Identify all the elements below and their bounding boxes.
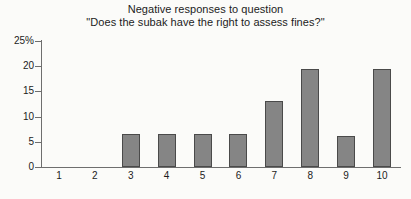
bar bbox=[373, 69, 391, 167]
y-axis-tick bbox=[35, 41, 41, 42]
x-axis-tick-label: 8 bbox=[307, 170, 313, 181]
x-axis-tick-label: 6 bbox=[236, 170, 242, 181]
x-axis-line bbox=[41, 167, 401, 168]
y-axis-tick-label: 0 bbox=[0, 161, 34, 172]
chart-title-line-1: Negative responses to question bbox=[0, 3, 411, 16]
x-axis-tick-label: 1 bbox=[56, 170, 62, 181]
y-axis-tick bbox=[35, 117, 41, 118]
y-axis-tick bbox=[35, 66, 41, 67]
y-axis-tick-label: 5 bbox=[0, 136, 34, 147]
x-axis-tick-label: 5 bbox=[200, 170, 206, 181]
chart-title: Negative responses to question "Does the… bbox=[0, 3, 411, 29]
x-axis-tick-label: 4 bbox=[164, 170, 170, 181]
x-axis-tick-label: 2 bbox=[92, 170, 98, 181]
bar bbox=[158, 134, 176, 167]
y-axis-tick bbox=[35, 142, 41, 143]
y-axis-tick bbox=[35, 167, 41, 168]
bar bbox=[122, 134, 140, 167]
chart-title-line-2: "Does the subak have the right to assess… bbox=[0, 16, 411, 29]
y-axis-tick-labels: 0510152025% bbox=[0, 0, 34, 199]
x-axis-tick-label: 3 bbox=[128, 170, 134, 181]
bar bbox=[301, 69, 319, 167]
bar bbox=[229, 134, 247, 167]
x-axis-tick-label: 9 bbox=[343, 170, 349, 181]
bar bbox=[265, 101, 283, 167]
y-axis-tick-label: 10 bbox=[0, 111, 34, 122]
bar bbox=[337, 136, 355, 167]
y-axis-tick-label: 15 bbox=[0, 85, 34, 96]
x-axis-tick-labels: 12345678910 bbox=[41, 170, 400, 186]
x-axis-tick-label: 7 bbox=[272, 170, 278, 181]
bar-chart: Negative responses to question "Does the… bbox=[0, 0, 411, 199]
plot-area bbox=[41, 41, 400, 167]
x-axis-tick-label: 10 bbox=[376, 170, 387, 181]
bar bbox=[194, 134, 212, 167]
y-axis-tick-label: 25% bbox=[0, 35, 34, 46]
y-axis-tick-label: 20 bbox=[0, 60, 34, 71]
y-axis-tick bbox=[35, 91, 41, 92]
